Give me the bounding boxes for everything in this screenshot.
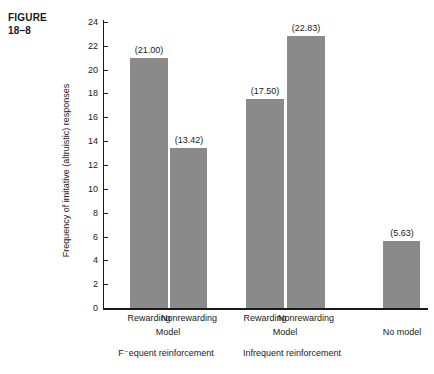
y-tick-4: 4 [78,256,98,265]
x-label-nonrewarding-frequent: Nonrewarding [151,313,227,324]
bar-value-label: (17.50) [235,86,295,96]
bar-nonrewarding-frequent [170,148,207,308]
bar-value-label: (22.83) [276,23,336,33]
bar-value-label: (13.42) [159,135,219,145]
y-tick-label: 10 [78,185,98,194]
y-tick-label: 8 [78,209,98,218]
y-tick-label: 6 [78,233,98,242]
y-tick-mark [103,284,108,285]
y-tick-22: 22 [78,42,98,51]
y-tick-label: 0 [78,304,98,313]
y-tick-mark [103,260,108,261]
y-tick-mark [103,141,108,142]
y-tick-mark [103,308,108,309]
group-label-infrequent-reinforcement: Infrequent reinforcement [222,348,362,359]
y-tick-label: 20 [78,66,98,75]
bar-chart: 24 22 20 18 16 14 12 10 8 6 4 2 0 Freque… [0,0,434,374]
y-tick-mark [103,70,108,71]
x-sublabel-model-frequent: Model [138,327,198,338]
y-tick-mark [103,22,108,23]
bar-value-label: (21.00) [119,45,179,55]
bar-value-label: (5.63) [372,228,432,238]
y-tick-6: 6 [78,233,98,242]
y-tick-mark [103,213,108,214]
y-tick-mark [103,46,108,47]
y-tick-label: 22 [78,42,98,51]
y-tick-mark [103,189,108,190]
y-tick-label: 2 [78,280,98,289]
y-tick-8: 8 [78,209,98,218]
y-tick-2: 2 [78,280,98,289]
bar-rewarding-frequent [130,58,168,308]
y-tick-14: 14 [78,137,98,146]
y-tick-20: 20 [78,66,98,75]
bar-rewarding-infrequent [246,99,284,308]
y-tick-label: 16 [78,113,98,122]
y-tick-label: 24 [78,18,98,27]
y-tick-12: 12 [78,161,98,170]
y-tick-mark [103,237,108,238]
y-tick-label: 14 [78,137,98,146]
y-tick-0: 0 [78,304,98,313]
x-sublabel-no-model: No model [371,327,433,338]
y-tick-mark [103,93,108,94]
y-tick-24: 24 [78,18,98,27]
x-axis-line [103,308,428,310]
y-tick-16: 16 [78,113,98,122]
x-label-nonrewarding-infrequent: Nonrewarding [268,313,344,324]
y-tick-10: 10 [78,185,98,194]
y-tick-mark [103,165,108,166]
y-tick-mark [103,117,108,118]
y-tick-18: 18 [78,89,98,98]
x-sublabel-model-infrequent: Model [255,327,315,338]
group-label-frequent-reinforcement: F⁻equent reinforcement [106,348,226,359]
y-tick-label: 4 [78,256,98,265]
bar-nonrewarding-infrequent [287,36,325,308]
y-tick-label: 18 [78,89,98,98]
y-tick-label: 12 [78,161,98,170]
y-axis-title: Frequency of imitative (altruistic) resp… [62,61,71,281]
bar-no-model [383,241,420,308]
